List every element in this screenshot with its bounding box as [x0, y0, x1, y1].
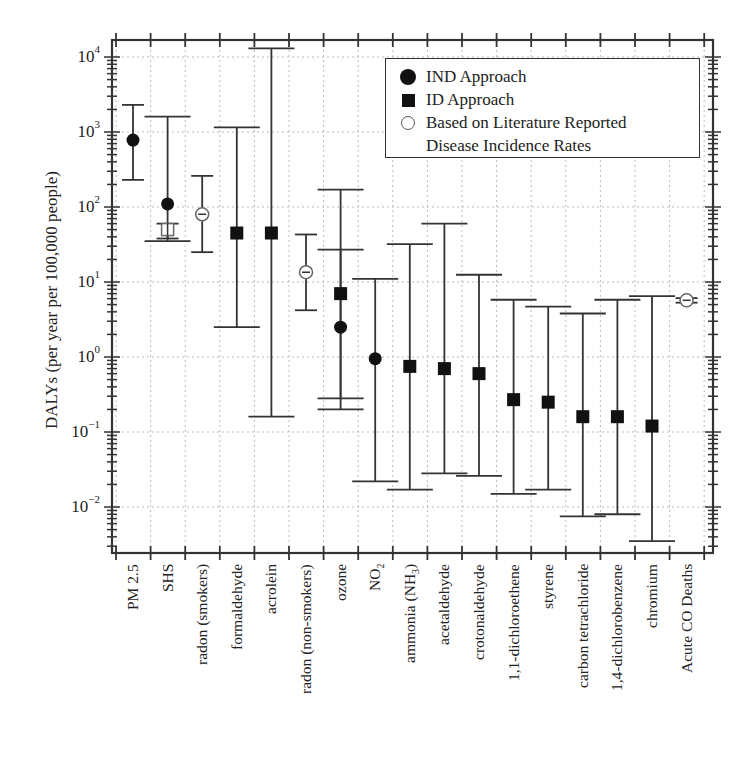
- open-circle-icon: [401, 116, 415, 130]
- filled-square-marker: [230, 227, 243, 240]
- filled-square-marker: [473, 367, 486, 380]
- y-tick-label: 100: [36, 345, 100, 367]
- y-tick-label: 101: [36, 270, 100, 292]
- y-tick-label: 104: [36, 45, 100, 67]
- filled-square-marker: [334, 287, 347, 300]
- x-tick-label: formaldehyde: [228, 564, 246, 650]
- legend-label: IND Approach: [426, 67, 527, 87]
- x-tick-label: crotonaldehyde: [470, 564, 488, 660]
- legend-item-literature-cont: Disease Incidence Rates: [426, 136, 591, 156]
- filled-square-marker: [576, 410, 589, 423]
- legend-item-ind: IND Approach: [400, 67, 527, 87]
- filled-circle-marker: [334, 321, 347, 334]
- x-tick-label: ozone: [332, 564, 350, 601]
- x-tick-label: chromium: [643, 564, 661, 628]
- filled-circle-marker: [369, 352, 382, 365]
- x-tick-label: NO2: [366, 564, 386, 591]
- filled-square-marker: [265, 227, 278, 240]
- legend-item-literature: Based on Literature Reported: [400, 113, 627, 133]
- x-tick-label: acrolein: [262, 564, 280, 614]
- filled-square-marker: [507, 393, 520, 406]
- filled-square-marker: [403, 360, 416, 373]
- x-tick-label: 1,4-dichlorobenzene: [608, 564, 626, 691]
- filled-circle-marker: [161, 197, 174, 210]
- filled-square-marker: [438, 362, 451, 375]
- legend-label: ID Approach: [426, 90, 514, 110]
- filled-square-icon: [402, 94, 415, 107]
- x-tick-label: SHS: [159, 564, 177, 592]
- filled-square-marker: [646, 420, 659, 433]
- x-tick-label: 1,1-dichloroethene: [505, 564, 523, 681]
- legend-label: Based on Literature Reported: [426, 113, 627, 133]
- legend-label: Disease Incidence Rates: [426, 136, 591, 156]
- x-tick-label: carbon tetrachloride: [574, 564, 592, 688]
- filled-circle-icon: [400, 69, 416, 85]
- filled-circle-marker: [127, 134, 140, 147]
- legend: IND Approach ID Approach Based on Litera…: [385, 58, 700, 158]
- x-tick-label: ammonia (NH3): [401, 564, 421, 663]
- x-tick-label: radon (smokers): [193, 564, 211, 665]
- x-tick-label: radon (non-smokers): [297, 564, 315, 694]
- x-tick-label: Acute CO Deaths: [678, 564, 696, 673]
- x-tick-label: acetaldehyde: [435, 564, 453, 645]
- legend-item-id: ID Approach: [400, 90, 514, 110]
- y-tick-label: 10−2: [36, 495, 100, 517]
- x-tick-label: styrene: [539, 564, 557, 609]
- y-tick-label: 10−1: [36, 420, 100, 442]
- x-tick-label: PM 2.5: [124, 564, 142, 610]
- y-tick-label: 103: [36, 120, 100, 142]
- y-tick-label: 102: [36, 195, 100, 217]
- filled-square-marker: [542, 396, 555, 409]
- filled-square-marker: [611, 410, 624, 423]
